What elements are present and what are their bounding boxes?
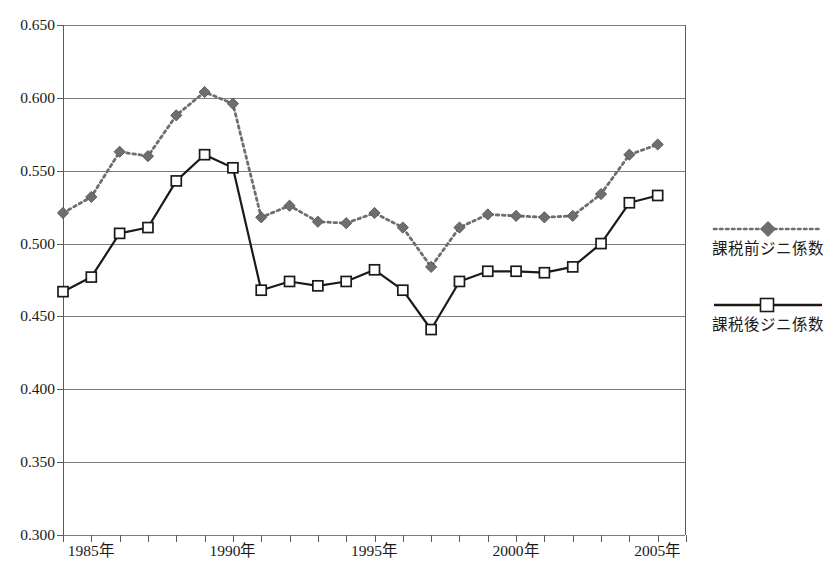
x-axis-tick-mark (686, 535, 687, 542)
x-axis-tick-mark (261, 535, 262, 542)
plot-area (63, 25, 686, 535)
x-axis-tick-mark (629, 535, 630, 542)
y-axis-tick-label: 0.300 (0, 527, 55, 543)
x-axis-tick-mark (544, 535, 545, 542)
gridline (64, 389, 685, 390)
x-axis-tick-mark (233, 535, 234, 542)
x-axis-tick-label: 2000年 (471, 543, 561, 559)
x-axis-tick-mark (346, 535, 347, 542)
y-axis-tick-label: 0.400 (0, 381, 55, 397)
chart-legend: 課税前ジニ係数 課税後ジニ係数 (700, 220, 836, 372)
x-axis-tick-mark (205, 535, 206, 542)
dotted-diamond-swatch (708, 220, 828, 238)
y-axis-tick-label: 0.450 (0, 308, 55, 324)
y-axis-tick-label: 0.600 (0, 90, 55, 106)
legend-label-pretax: 課税前ジニ係数 (700, 240, 836, 258)
legend-label-posttax: 課税後ジニ係数 (700, 316, 836, 334)
y-axis-tick-mark (57, 171, 63, 172)
x-axis-tick-label: 1995年 (330, 543, 420, 559)
y-axis-tick-label: 0.550 (0, 163, 55, 179)
x-axis-tick-mark (176, 535, 177, 542)
x-axis-tick-mark (573, 535, 574, 542)
x-axis-tick-mark (403, 535, 404, 542)
y-axis-tick-mark (57, 316, 63, 317)
y-axis-tick-label: 0.650 (0, 17, 55, 33)
x-axis-tick-mark (120, 535, 121, 542)
y-axis-tick-mark (57, 98, 63, 99)
x-axis-tick-mark (601, 535, 602, 542)
gridline (64, 98, 685, 99)
x-axis-tick-mark (516, 535, 517, 542)
solid-square-swatch (708, 296, 828, 314)
x-axis-tick-label: 2005年 (613, 543, 703, 559)
y-axis-tick-mark (57, 389, 63, 390)
y-axis-tick-label: 0.500 (0, 236, 55, 252)
y-axis-tick-mark (57, 25, 63, 26)
x-axis-tick-label: 1990年 (188, 543, 278, 559)
x-axis-tick-mark (91, 535, 92, 542)
x-axis-tick-mark (375, 535, 376, 542)
x-axis-tick-mark (459, 535, 460, 542)
gridline (64, 171, 685, 172)
x-axis-tick-mark (431, 535, 432, 542)
legend-entry-pretax: 課税前ジニ係数 (700, 220, 836, 258)
legend-entry-posttax: 課税後ジニ係数 (700, 296, 836, 334)
gini-coefficient-line-chart: 0.3000.3500.4000.4500.5000.5500.6000.650… (0, 0, 836, 582)
x-axis-tick-mark (488, 535, 489, 542)
gridline (64, 462, 685, 463)
y-axis-tick-mark (57, 244, 63, 245)
x-axis-tick-mark (63, 535, 64, 542)
x-axis-tick-label: 1985年 (46, 543, 136, 559)
gridline (64, 25, 685, 26)
gridline (64, 316, 685, 317)
x-axis-tick-mark (148, 535, 149, 542)
x-axis-tick-mark (290, 535, 291, 542)
y-axis-tick-mark (57, 462, 63, 463)
gridline (64, 244, 685, 245)
x-axis-tick-mark (658, 535, 659, 542)
y-axis-tick-label: 0.350 (0, 454, 55, 470)
x-axis-tick-mark (318, 535, 319, 542)
